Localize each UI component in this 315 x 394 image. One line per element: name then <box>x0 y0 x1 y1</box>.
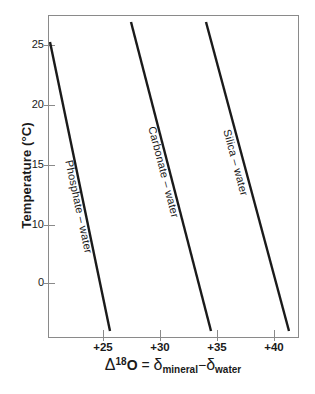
plot-frame <box>49 16 299 338</box>
y-tick-marks <box>44 46 55 284</box>
mass-number-18: 18 <box>116 356 127 367</box>
minus-sign: − <box>198 357 206 373</box>
series-line-silica-water <box>206 22 289 331</box>
oxygen-symbol: O <box>127 357 138 373</box>
plot-area <box>0 0 315 394</box>
delta-capital-symbol: Δ <box>105 356 116 373</box>
delta-lower-symbol-water: δ <box>206 356 215 373</box>
equals-sign: = <box>141 357 149 373</box>
isotope-fractionation-figure: Temperature (°C) 25 20 15 10 0 +25 +30 +… <box>0 0 315 394</box>
x-tick-marks <box>104 330 275 341</box>
x-axis-title: Δ18O = δmineral−δwater <box>40 356 306 375</box>
subscript-water: water <box>215 364 241 375</box>
subscript-mineral: mineral <box>162 364 198 375</box>
